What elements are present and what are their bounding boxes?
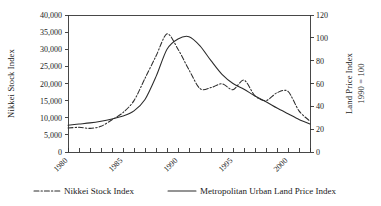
y-axis-right-tick-label: 20 [316, 125, 324, 134]
x-axis-tick-label: 1990 [162, 156, 180, 174]
y-axis-left-tick-label: 20,000 [40, 80, 62, 89]
x-axis-tick-label: 1980 [52, 156, 70, 174]
y-axis-left-tick-label: 30,000 [40, 45, 62, 54]
chart-figure: 05,00010,00015,00020,00025,00030,00035,0… [0, 0, 381, 206]
y-axis-left-tick-label: 15,000 [40, 97, 62, 106]
series-line-land-price [68, 36, 310, 125]
legend-label-nikkei: Nikkei Stock Index [64, 186, 134, 196]
y-axis-right-tick-label: 60 [316, 80, 324, 89]
x-axis-tick-label: 1995 [217, 156, 235, 174]
y-axis-left-tick-label: 35,000 [40, 28, 62, 37]
y-axis-right-tick-label: 0 [316, 148, 320, 157]
legend-label-land-price: Metropolitan Urban Land Price Index [200, 186, 336, 196]
y-axis-left-tick-label: 40,000 [40, 11, 62, 20]
y-axis-right-tick-label: 40 [316, 102, 324, 111]
x-axis-tick-label: 2000 [272, 156, 290, 174]
y-axis-left-tick-label: 5,000 [44, 131, 62, 140]
line-chart: 05,00010,00015,00020,00025,00030,00035,0… [0, 0, 381, 206]
series-line-nikkei [68, 34, 310, 129]
y-axis-left-tick-label: 0 [58, 148, 62, 157]
y-axis-right-title-line2: 1990 = 100 [356, 63, 366, 103]
y-axis-left-title: Nikkei Stock Index [6, 49, 16, 118]
y-axis-right-tick-label: 100 [316, 34, 328, 43]
x-axis-tick-label: 1985 [107, 156, 125, 174]
y-axis-right-title-line1: Land Price Index [344, 52, 354, 114]
y-axis-right-tick-label: 80 [316, 57, 324, 66]
y-axis-left-tick-label: 25,000 [40, 62, 62, 71]
y-axis-right-tick-label: 120 [316, 11, 328, 20]
y-axis-left-tick-label: 10,000 [40, 114, 62, 123]
